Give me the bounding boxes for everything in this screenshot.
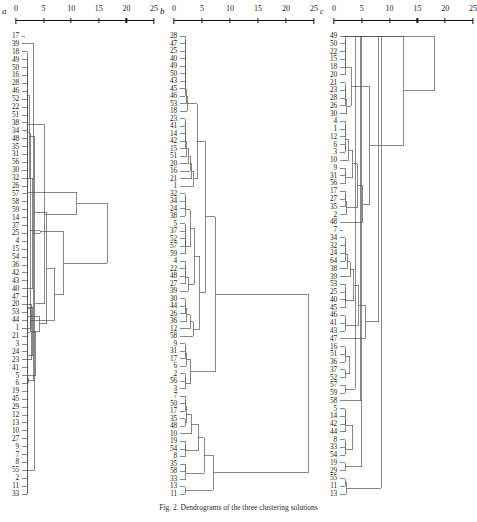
axis-tick-label: 10: [67, 4, 75, 13]
dendrogram-link: [345, 425, 353, 449]
panel-a-axis: 0510152025: [16, 4, 154, 30]
axis-tick: [472, 18, 473, 24]
dendrogram-link: [186, 438, 204, 474]
dendrogram-link: [343, 288, 345, 300]
axis-tick-label: 5: [200, 4, 204, 13]
axis-tick: [71, 18, 72, 23]
panel-c: c 0510152025 495022151820212328263041126…: [318, 0, 477, 500]
panel-a-axis-labels: 0510152025: [16, 4, 154, 16]
axis-tick-label: 0: [172, 4, 176, 13]
axis-bar: [334, 20, 473, 21]
dendrogram-link: [346, 164, 357, 208]
dendrogram-link: [183, 348, 185, 359]
figure-dendrograms: a 0510152025 173918495016284652225138344…: [0, 0, 477, 522]
axis-tick-label: 5: [360, 4, 364, 13]
axis-tick: [126, 18, 127, 23]
axis-tick-label: 0: [332, 4, 336, 13]
dendrogram-link: [185, 455, 213, 490]
dendrogram-link: [185, 210, 190, 247]
axis-tick: [173, 18, 174, 24]
axis-tick: [153, 18, 154, 24]
dendrogram-link: [343, 195, 345, 207]
dendrogram-link: [183, 414, 191, 434]
panel-b: b 0510152025 284725404950434546531823411…: [158, 0, 318, 500]
dendrogram-link: [183, 271, 185, 284]
axis-tick-label: 15: [413, 4, 421, 13]
dendrogram-link: [183, 233, 185, 246]
dendrogram-link: [183, 135, 185, 149]
dendrogram-link: [345, 356, 350, 374]
axis-tick: [361, 18, 362, 23]
axis-tick: [43, 18, 44, 23]
panel-b-axis: 0510152025: [174, 4, 314, 30]
dendrogram-link: [343, 370, 345, 378]
panel-b-axis-labels: 0510152025: [174, 4, 314, 16]
panel-a-links: [0, 30, 158, 500]
axis-tick: [285, 18, 286, 23]
axis-bar: [16, 20, 154, 21]
axis-tick-label: 15: [95, 4, 103, 13]
axis-tick-label: 0: [14, 4, 18, 13]
figure-caption: Fig. 2. Dendrograms of the three cluster…: [0, 503, 477, 512]
axis-tick: [333, 18, 334, 24]
dendrogram-link: [343, 463, 345, 471]
dendrogram-link: [183, 464, 185, 472]
dendrogram-link: [343, 413, 345, 425]
dendrogram-link: [343, 145, 345, 153]
dendrogram-link: [185, 360, 191, 384]
dendrogram-link: [343, 36, 362, 467]
dendrogram-link: [345, 67, 351, 106]
panel-a-letter: a: [2, 6, 7, 16]
dendrogram-link: [343, 385, 345, 393]
dendrogram-link: [183, 441, 185, 449]
dendrogram-link: [188, 228, 194, 284]
dendrogram-link: [345, 150, 353, 178]
dendrogram-link: [343, 36, 361, 401]
axis-tick-label: 20: [282, 4, 290, 13]
axis-tick: [257, 18, 258, 23]
dendrogram-link: [183, 203, 185, 216]
axis-tick-label: 5: [42, 4, 46, 13]
panel-b-tree: 2847254049504345465318234114421551201621…: [158, 30, 318, 500]
dendrogram-link: [343, 444, 345, 456]
dendrogram-link: [345, 285, 359, 325]
dendrogram-link: [183, 265, 185, 276]
dendrogram-link: [30, 231, 40, 234]
dendrogram-link: [197, 141, 205, 293]
dendrogram-link: [343, 350, 345, 362]
dendrogram-link: [27, 125, 45, 304]
dendrogram-link: [343, 140, 349, 160]
axis-tick-label: 10: [226, 4, 234, 13]
dendrogram-link: [183, 419, 185, 427]
dendrogram-link: [183, 378, 185, 389]
axis-tick: [229, 18, 230, 23]
dendrogram-link: [27, 133, 30, 329]
dendrogram-link: [343, 201, 346, 215]
dendrogram-link: [27, 178, 33, 289]
panel-b-links: [158, 30, 318, 500]
dendrogram-link: [64, 203, 108, 263]
panel-b-letter: b: [160, 6, 165, 16]
panel-b-axis-line: [174, 18, 314, 24]
dendrogram-link: [183, 240, 185, 254]
panel-c-links: [318, 30, 477, 500]
dendrogram-link: [40, 232, 63, 294]
panel-c-tree: 4950221518202123282630411263109315617273…: [318, 30, 477, 500]
dendrogram-link: [343, 294, 345, 308]
dendrogram-link: [343, 319, 345, 331]
dendrogram-link: [343, 36, 434, 91]
axis-tick: [15, 18, 16, 24]
dendrogram-link: [183, 400, 185, 411]
axis-tick: [313, 18, 314, 24]
dendrogram-link: [343, 36, 404, 145]
dendrogram-link: [343, 92, 345, 106]
dendrogram-link: [343, 418, 345, 432]
dendrogram-link: [343, 479, 345, 487]
panel-c-axis: 0510152025: [334, 4, 473, 30]
axis-tick-label: 15: [254, 4, 262, 13]
panel-a-axis-line: [16, 18, 154, 24]
dendrogram-link: [183, 487, 185, 495]
axis-tick: [389, 18, 390, 23]
dendrogram-link: [343, 172, 345, 184]
dendrogram-link: [343, 125, 345, 137]
